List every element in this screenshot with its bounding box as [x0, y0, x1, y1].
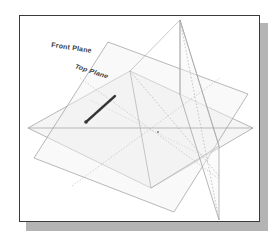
selected-edge-endpoint[interactable]	[84, 120, 88, 124]
figure-frame: Front Plane Top Plane	[19, 15, 260, 222]
figure-stage: Front Plane Top Plane	[0, 0, 278, 244]
origin-point	[157, 131, 159, 133]
